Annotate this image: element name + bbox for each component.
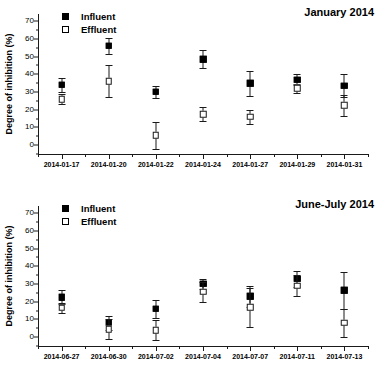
error-bar-cap [105, 316, 112, 317]
x-tick-mark-minor [368, 346, 369, 349]
x-tick-mark-minor [85, 154, 86, 157]
open-square-marker [294, 85, 301, 92]
error-bar-cap [105, 54, 112, 55]
error-bar-cap [294, 93, 301, 94]
error-bar-cap [58, 313, 65, 314]
filled-square-marker [153, 89, 160, 96]
error-bar-cap [200, 279, 207, 280]
x-tick-label: 2014-01-31 [327, 161, 363, 169]
filled-square-marker [294, 76, 301, 83]
y-tick-mark-minor [36, 83, 39, 84]
filled-square-marker [105, 43, 112, 50]
y-tick-mark-minor [36, 29, 39, 30]
plot-area-june-july: 010203040506070 [38, 206, 368, 346]
open-square-marker [153, 132, 160, 139]
error-bar-cap [152, 340, 159, 341]
chart-panel-june-july: Degree of inhibition (%) June-July 2014 … [0, 192, 386, 384]
y-tick-label: 0 [30, 141, 38, 149]
x-tick-mark [62, 154, 63, 159]
chart-panel-january: Degree of inhibition (%) January 2014 In… [0, 0, 386, 192]
open-square-marker [341, 320, 348, 327]
y-tick-label: 50 [25, 245, 38, 253]
error-bar-cap [341, 116, 348, 117]
error-bar-cap [58, 104, 65, 105]
x-tick-mark-minor [38, 346, 39, 349]
open-square-marker [294, 282, 301, 289]
error-bar-cap [105, 38, 112, 39]
error-bar-cap [200, 68, 207, 69]
y-tick-mark-minor [36, 65, 39, 66]
error-bar-cap [294, 275, 301, 276]
filled-square-marker [200, 56, 207, 63]
error-bar-cap [152, 86, 159, 87]
open-square-marker [153, 327, 160, 334]
x-tick-mark-minor [85, 346, 86, 349]
x-tick-mark [250, 154, 251, 159]
x-tick-label: 2014-01-29 [279, 161, 315, 169]
error-bar-cap [152, 149, 159, 150]
error-bar-cap [105, 97, 112, 98]
x-tick-label: 2014-01-17 [44, 161, 80, 169]
x-tick-mark-minor [132, 346, 133, 349]
error-bar-cap [152, 320, 159, 321]
x-tick-mark-minor [274, 346, 275, 349]
error-bar-cap [341, 337, 348, 338]
y-tick-mark-minor [36, 136, 39, 137]
x-tick-mark [156, 346, 157, 351]
y-tick-label: 40 [25, 70, 38, 78]
x-tick-mark-minor [321, 154, 322, 157]
x-tick-label: 2014-01-22 [138, 161, 174, 169]
open-square-marker [200, 111, 207, 118]
error-bar-cap [152, 98, 159, 99]
open-square-marker [105, 78, 112, 85]
error-bar-cap [200, 121, 207, 122]
error-bar-cap [152, 318, 159, 319]
x-tick-mark [109, 346, 110, 351]
open-square-marker [247, 304, 254, 311]
x-tick-mark-minor [132, 154, 133, 157]
error-bar-cap [247, 327, 254, 328]
x-tick-mark [156, 154, 157, 159]
filled-square-marker [153, 306, 160, 313]
error-bar-cap [58, 94, 65, 95]
error-bar-cap [247, 124, 254, 125]
y-tick-label: 50 [25, 53, 38, 61]
y-tick-label: 20 [25, 106, 38, 114]
y-tick-label: 60 [25, 227, 38, 235]
x-tick-label: 2014-01-27 [232, 161, 268, 169]
error-bar-cap [247, 96, 254, 97]
open-square-marker [247, 114, 254, 121]
error-bar-cap [152, 122, 159, 123]
error-bar-cap [58, 303, 65, 304]
y-tick-label: 10 [25, 123, 38, 131]
y-tick-mark-minor [36, 239, 39, 240]
x-tick-mark [109, 154, 110, 159]
y-tick-label: 0 [30, 333, 38, 341]
open-square-marker [341, 102, 348, 109]
plot-area-january: 010203040506070 [38, 14, 368, 154]
x-tick-mark-minor [227, 154, 228, 157]
x-tick-mark [62, 346, 63, 351]
x-tick-mark [344, 346, 345, 351]
error-bar-cap [105, 339, 112, 340]
x-tick-mark [297, 346, 298, 351]
y-tick-label: 70 [25, 17, 38, 25]
error-bar-cap [341, 95, 348, 96]
x-tick-mark-minor [321, 346, 322, 349]
open-square-marker [105, 326, 112, 333]
error-bar-cap [341, 272, 348, 273]
error-bar-cap [247, 110, 254, 111]
filled-square-marker [247, 80, 254, 87]
x-tick-label: 2014-01-24 [185, 161, 221, 169]
x-tick-mark-minor [179, 346, 180, 349]
x-tick-mark [344, 154, 345, 159]
error-bar-cap [200, 50, 207, 51]
x-tick-mark-minor [179, 154, 180, 157]
error-bar-cap [200, 302, 207, 303]
error-bar-cap [341, 309, 348, 310]
y-tick-label: 70 [25, 209, 38, 217]
x-tick-label: 2014-06-30 [91, 353, 127, 361]
y-axis-title-top: Degree of inhibition (%) [2, 14, 14, 154]
x-tick-label: 2014-07-02 [138, 353, 174, 361]
filled-square-marker [341, 287, 348, 294]
